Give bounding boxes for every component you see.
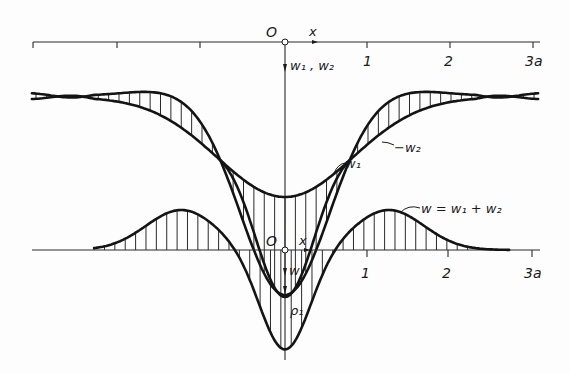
upper-x-axis [33, 39, 540, 360]
w-sum-label: w = w₁ + w₂ [421, 201, 502, 216]
lower-tick-3a: 3a [524, 265, 542, 281]
w-arrow-icon [283, 286, 287, 294]
upper-tick-1: 1 [363, 53, 372, 69]
upper-origin-label: O [266, 24, 277, 40]
lower-tick-2: 2 [442, 265, 451, 281]
upper-tick-2: 2 [444, 53, 453, 69]
lower-origin-label: O [266, 233, 277, 249]
lower-tick-1: 1 [361, 265, 370, 281]
upper-tick-3a: 3a [525, 53, 543, 69]
w-arrow-icon [283, 64, 287, 72]
x-arrow-icon [312, 40, 318, 44]
minus-w2-label: −w₂ [394, 140, 421, 155]
lower-x-axis [32, 247, 540, 294]
diagram-canvas: O x w₁ , w₂ 1 2 3a w₁ −w₂ O x w ρ₁ 1 2 3… [0, 0, 570, 373]
upper-y-label: w₁ , w₂ [290, 58, 334, 73]
w2-leader [382, 142, 394, 145]
upper-x-label: x [308, 24, 317, 39]
lower-y-label: w [289, 263, 300, 278]
lower-x-label: x [298, 233, 307, 248]
w-arrow-icon [283, 268, 287, 276]
rho1-label: ρ₁ [290, 303, 303, 318]
deflection-diagram: O x w₁ , w₂ 1 2 3a w₁ −w₂ O x w ρ₁ 1 2 3… [0, 0, 570, 373]
